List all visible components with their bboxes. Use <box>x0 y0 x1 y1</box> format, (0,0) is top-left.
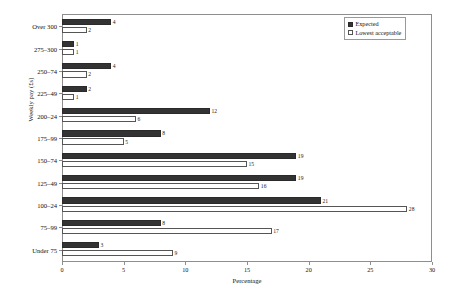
bar-expected: 21 <box>62 197 321 203</box>
bar-row: 250–7442 <box>62 60 432 82</box>
x-axis-tick-label: 15 <box>244 266 250 273</box>
bar-lowest-acceptable: 28 <box>62 206 407 212</box>
bar-value-label: 12 <box>212 108 218 114</box>
bar-lowest-acceptable: 1 <box>62 94 74 100</box>
y-axis-tick-label: 150–74 <box>37 157 57 164</box>
y-axis-tick-label: 275–300 <box>34 45 57 52</box>
bar-row: 275–30011 <box>62 37 432 59</box>
bar-lowest-acceptable: 5 <box>62 138 124 144</box>
bar-value-label: 1 <box>76 41 79 47</box>
x-axis-tick-label: 5 <box>122 266 125 273</box>
x-axis-tick-label: 0 <box>60 266 63 273</box>
y-axis-tick-label: Over 300 <box>32 23 57 30</box>
x-axis-tick <box>309 262 310 265</box>
bar-value-label: 15 <box>249 161 255 167</box>
bar-row: 200–24126 <box>62 104 432 126</box>
x-axis-tick <box>124 262 125 265</box>
bar-value-label: 4 <box>113 19 116 25</box>
bar-expected: 3 <box>62 242 99 248</box>
y-axis-tick-label: 125–49 <box>37 179 57 186</box>
y-axis-tick-label: 75–99 <box>41 224 57 231</box>
legend-item: Expected <box>348 21 401 27</box>
bar-row: 75–99817 <box>62 216 432 238</box>
y-axis-tick-label: 175–99 <box>37 134 57 141</box>
bar-rows: Over 30042275–30011250–7442225–4921200–2… <box>62 15 432 261</box>
bar-row: 100–242128 <box>62 194 432 216</box>
bar-value-label: 19 <box>298 153 304 159</box>
legend-label: Lowest acceptable <box>356 30 402 36</box>
y-axis-tick-label: 200–24 <box>37 112 57 119</box>
bar-lowest-acceptable: 1 <box>62 49 74 55</box>
legend-item: Lowest acceptable <box>348 30 401 36</box>
bar-value-label: 17 <box>273 228 279 234</box>
bar-value-label: 5 <box>125 139 128 145</box>
bar-row: 175–9985 <box>62 127 432 149</box>
bar-value-label: 16 <box>261 183 267 189</box>
bar-value-label: 21 <box>323 198 329 204</box>
legend-label: Expected <box>356 21 379 27</box>
y-axis-title: Weekly pay (£s) <box>27 40 34 160</box>
bar-value-label: 2 <box>88 71 91 77</box>
bar-expected: 19 <box>62 153 296 159</box>
bar-value-label: 19 <box>298 175 304 181</box>
bar-value-label: 28 <box>409 206 415 212</box>
filled-square-icon <box>348 22 353 27</box>
bar-expected: 4 <box>62 19 111 25</box>
bar-lowest-acceptable: 2 <box>62 27 87 33</box>
x-axis: Percentage 051015202530 <box>62 262 432 292</box>
x-axis-tick <box>62 262 63 265</box>
bar-expected: 2 <box>62 86 87 92</box>
bar-chart: Weekly pay (£s) Over 30042275–30011250–7… <box>0 0 461 296</box>
bar-value-label: 3 <box>101 242 104 248</box>
bar-value-label: 2 <box>88 27 91 33</box>
bar-lowest-acceptable: 2 <box>62 71 87 77</box>
bar-value-label: 1 <box>76 94 79 100</box>
bar-expected: 19 <box>62 175 296 181</box>
x-axis-tick <box>432 262 433 265</box>
bar-lowest-acceptable: 16 <box>62 183 259 189</box>
bar-value-label: 2 <box>88 86 91 92</box>
bar-value-label: 4 <box>113 63 116 69</box>
bar-value-label: 8 <box>162 130 165 136</box>
x-axis-tick <box>370 262 371 265</box>
bar-value-label: 6 <box>138 116 141 122</box>
y-axis-tick-label: 250–74 <box>37 67 57 74</box>
y-axis-tick-label: 225–49 <box>37 90 57 97</box>
bar-lowest-acceptable: 17 <box>62 228 272 234</box>
bar-value-label: 1 <box>76 49 79 55</box>
bar-expected: 4 <box>62 63 111 69</box>
bar-value-label: 8 <box>162 220 165 226</box>
x-axis-tick <box>247 262 248 265</box>
bar-row: 150–741915 <box>62 149 432 171</box>
bar-row: 225–4921 <box>62 82 432 104</box>
bar-row: Under 7539 <box>62 239 432 261</box>
bar-expected: 1 <box>62 41 74 47</box>
bar-lowest-acceptable: 15 <box>62 161 247 167</box>
bar-expected: 12 <box>62 108 210 114</box>
x-axis-title: Percentage <box>62 277 432 284</box>
y-axis-tick-label: Under 75 <box>32 246 57 253</box>
bar-value-label: 9 <box>175 250 178 256</box>
x-axis-tick-label: 25 <box>367 266 373 273</box>
x-axis-tick-label: 10 <box>182 266 188 273</box>
y-axis-tick-label: 100–24 <box>37 202 57 209</box>
bar-lowest-acceptable: 9 <box>62 250 173 256</box>
bar-lowest-acceptable: 6 <box>62 116 136 122</box>
x-axis-tick <box>185 262 186 265</box>
bar-expected: 8 <box>62 130 161 136</box>
open-square-icon <box>348 30 353 35</box>
x-axis-tick-label: 30 <box>429 266 435 273</box>
x-axis-tick-label: 20 <box>306 266 312 273</box>
chart-legend: ExpectedLowest acceptable <box>344 17 406 40</box>
bar-row: 125–491916 <box>62 172 432 194</box>
bar-expected: 8 <box>62 220 161 226</box>
